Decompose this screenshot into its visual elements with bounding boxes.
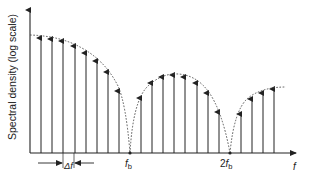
envelope-main-lobe — [30, 35, 130, 153]
spectral-density-diagram: Spectral density (log scale) fb 2fb f Δf — [0, 0, 316, 178]
2fb-label: 2fb — [220, 158, 233, 171]
fb-label: fb — [125, 158, 132, 171]
envelope-second-lobe — [130, 74, 230, 153]
delta-f-label: Δf — [63, 160, 74, 171]
spectral-lines — [41, 38, 274, 153]
delta-f-marker: Δf — [38, 153, 94, 171]
y-axis-label: Spectral density (log scale) — [6, 14, 18, 140]
null-marker-fb — [128, 151, 131, 154]
envelope-third-lobe — [230, 87, 286, 153]
null-marker-2fb — [228, 151, 231, 154]
x-axis-label: f — [293, 161, 297, 172]
